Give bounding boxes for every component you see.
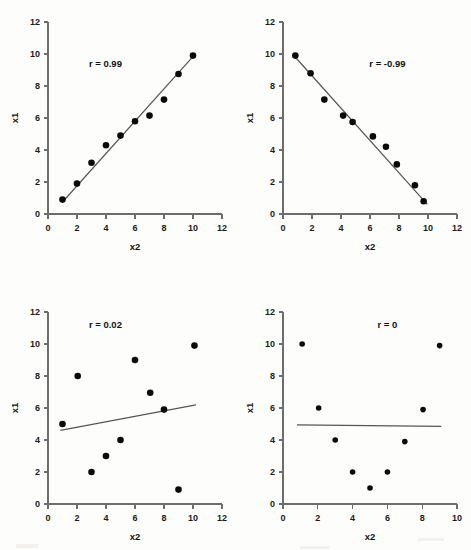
y-tick-label: 4 — [35, 145, 40, 155]
data-point — [59, 421, 66, 428]
trend-line — [296, 58, 427, 204]
data-point — [132, 118, 139, 125]
data-point — [394, 161, 401, 168]
scatterplot-figure-grid: 024681012024681012x2x1r = 0.99 024681012… — [0, 0, 471, 550]
data-point — [175, 486, 182, 493]
x-tick-label: 6 — [385, 513, 390, 523]
y-tick-label: 10 — [265, 339, 275, 349]
x-tick-label: 10 — [188, 223, 198, 233]
data-point — [146, 112, 153, 119]
data-point — [161, 406, 168, 413]
x-tick-label: 10 — [188, 513, 198, 523]
data-point — [74, 373, 81, 380]
data-point — [161, 96, 168, 103]
x-tick-label: 8 — [420, 513, 425, 523]
data-point — [88, 469, 95, 476]
scatter-panel-rneg099: 024681012024681012x2x1r = -0.99 — [235, 2, 471, 272]
correlation-annotation: r = 0.02 — [89, 319, 122, 330]
data-point — [437, 343, 443, 349]
x-tick-label: 10 — [423, 223, 433, 233]
y-tick-label: 10 — [30, 339, 40, 349]
data-point — [190, 52, 197, 59]
correlation-annotation: r = 0.99 — [89, 58, 122, 69]
x-tick-label: 2 — [315, 513, 320, 523]
correlation-annotation: r = 0 — [377, 319, 397, 330]
y-tick-label: 4 — [270, 145, 275, 155]
y-tick-label: 8 — [270, 81, 275, 91]
data-point — [321, 96, 328, 103]
y-tick-label: 4 — [270, 435, 275, 445]
scatter-panel-r0: 0246810120246810x2x1r = 0 — [235, 292, 471, 550]
y-tick-label: 12 — [265, 17, 275, 27]
y-tick-label: 12 — [30, 17, 40, 27]
x-tick-label: 6 — [132, 223, 137, 233]
correlation-annotation: r = -0.99 — [369, 58, 405, 69]
data-point — [340, 112, 347, 119]
x-tick-label: 2 — [74, 513, 79, 523]
data-point — [385, 469, 391, 475]
y-tick-label: 6 — [35, 113, 40, 123]
y-tick-label: 8 — [35, 81, 40, 91]
y-tick-label: 8 — [270, 371, 275, 381]
y-axis-title: x1 — [244, 112, 255, 123]
data-point — [350, 469, 356, 475]
scatter-plot-svg: 024681012024681012x2x1r = -0.99 — [235, 2, 471, 272]
x-axis-title: x2 — [130, 531, 141, 542]
y-axis-title: x1 — [9, 402, 20, 413]
scatter-panel-r002: 024681012024681012x2x1r = 0.02 — [0, 292, 236, 550]
x-tick-label: 0 — [280, 223, 285, 233]
data-point — [307, 70, 314, 77]
data-point — [316, 405, 322, 411]
x-tick-label: 0 — [280, 513, 285, 523]
x-tick-label: 2 — [74, 223, 79, 233]
x-tick-label: 4 — [103, 513, 108, 523]
data-point — [103, 453, 110, 460]
x-tick-label: 4 — [350, 513, 355, 523]
y-tick-label: 12 — [30, 307, 40, 317]
data-point — [292, 52, 299, 59]
y-tick-label: 8 — [35, 371, 40, 381]
data-point — [370, 133, 377, 140]
y-tick-label: 6 — [270, 113, 275, 123]
x-tick-label: 8 — [161, 513, 166, 523]
y-tick-label: 0 — [35, 499, 40, 509]
y-tick-label: 4 — [35, 435, 40, 445]
data-point — [412, 182, 419, 189]
data-point — [117, 132, 124, 139]
x-tick-label: 8 — [161, 223, 166, 233]
x-tick-label: 0 — [45, 513, 50, 523]
x-axis-title: x2 — [365, 241, 376, 252]
y-tick-label: 2 — [270, 177, 275, 187]
x-tick-label: 12 — [217, 223, 227, 233]
scatter-plot-svg: 024681012024681012x2x1r = 0.99 — [0, 2, 236, 272]
y-tick-label: 2 — [35, 177, 40, 187]
y-tick-label: 0 — [270, 499, 275, 509]
y-tick-label: 0 — [270, 209, 275, 219]
x-tick-label: 4 — [338, 223, 343, 233]
y-tick-label: 2 — [35, 467, 40, 477]
data-point — [383, 144, 390, 151]
x-tick-label: 8 — [396, 223, 401, 233]
x-tick-label: 0 — [45, 223, 50, 233]
y-axis-title: x1 — [9, 112, 20, 123]
scatter-panel-r099: 024681012024681012x2x1r = 0.99 — [0, 2, 236, 272]
scatter-plot-svg: 024681012024681012x2x1r = 0.02 — [0, 292, 236, 550]
data-point — [402, 439, 408, 445]
data-point — [420, 198, 427, 205]
data-point — [117, 437, 124, 444]
trend-line — [63, 55, 195, 202]
data-point — [103, 142, 110, 149]
y-tick-label: 2 — [270, 467, 275, 477]
y-axis-title: x1 — [244, 402, 255, 413]
data-point — [59, 196, 66, 203]
y-tick-label: 6 — [270, 403, 275, 413]
y-tick-label: 12 — [265, 307, 275, 317]
y-tick-label: 10 — [265, 49, 275, 59]
data-point — [175, 71, 182, 78]
data-point — [420, 407, 426, 413]
data-point — [88, 160, 95, 167]
x-axis-title: x2 — [365, 531, 376, 542]
x-tick-label: 2 — [309, 223, 314, 233]
data-point — [74, 180, 81, 187]
x-axis-title: x2 — [130, 241, 141, 252]
